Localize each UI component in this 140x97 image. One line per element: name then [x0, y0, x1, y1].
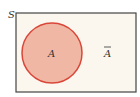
venn-diagram: S A A — [0, 0, 140, 97]
complement-label: A — [103, 48, 111, 59]
set-a-label: A — [47, 48, 55, 59]
universe-label: S — [8, 9, 15, 20]
